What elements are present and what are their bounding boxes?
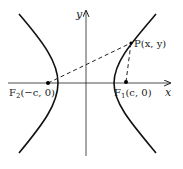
point-p [129,41,132,44]
hyperbola-left-branch [19,14,58,153]
point-f1-label: F1(c, 0) [114,87,152,100]
point-f1 [124,80,128,84]
hyperbola-diagram: y x P(x, y) F1(c, 0) F2(−c, 0) [0,0,183,169]
point-f2-label: F2(−c, 0) [9,87,55,100]
hyperbola-right-branch [114,14,156,153]
point-f2 [46,81,50,85]
x-axis-label: x [165,86,172,99]
point-p-label: P(x, y) [134,38,166,49]
y-axis-label: y [75,8,83,21]
